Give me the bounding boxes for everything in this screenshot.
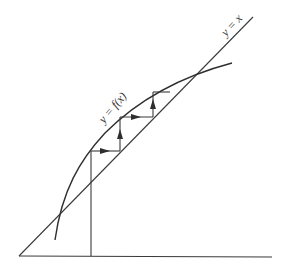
- curve-label: y = f(x): [95, 89, 130, 126]
- cobweb-diagram: y = f(x) y = x: [0, 0, 287, 276]
- arrow-up-icon: [150, 99, 156, 109]
- diagonal-line-y-equals-x: [19, 17, 253, 256]
- arrow-right-icon: [131, 114, 141, 120]
- x-axis: [19, 256, 272, 257]
- arrow-right-icon: [100, 148, 110, 154]
- curve-f-of-x: [55, 63, 232, 240]
- diagonal-label: y = x: [217, 11, 245, 40]
- arrow-up-icon: [117, 129, 123, 139]
